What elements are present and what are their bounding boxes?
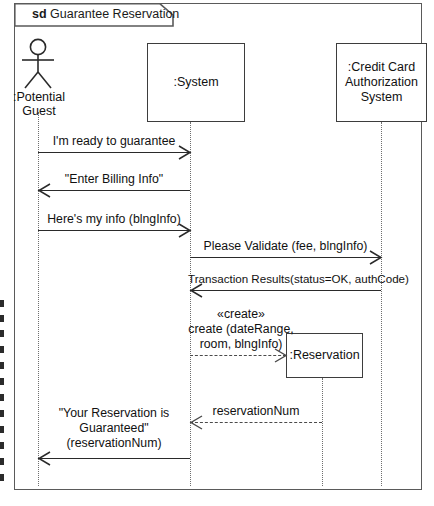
actor-potential-guest-label: :Potential Guest — [0, 90, 78, 119]
actor-potential-guest[interactable] — [14, 38, 64, 90]
scan-speckle — [0, 362, 4, 369]
scan-speckle — [0, 442, 4, 449]
scan-speckle — [0, 315, 4, 322]
message-label: Transaction Results(status=OK, authCode) — [188, 272, 383, 286]
participant-credit-card-authorization-system[interactable]: :Credit Card Authorization System — [336, 43, 427, 122]
message-line — [38, 230, 190, 231]
message-label: «create» create (dateRange, room, blngIn… — [186, 307, 296, 351]
participant-credit-card-label-line-3: System — [345, 90, 418, 105]
scan-speckle — [0, 458, 4, 465]
arrowhead-left — [37, 182, 51, 203]
frame-title: Guarantee Reservation — [50, 7, 179, 21]
lifeline-reservation — [322, 378, 323, 486]
scan-edge-artifact — [0, 0, 5, 506]
arrowhead-left — [37, 450, 51, 471]
participant-credit-card-label-line-1: :Credit Card — [345, 60, 418, 75]
message-line — [190, 422, 322, 423]
scan-speckle — [0, 300, 4, 307]
message-stereotype: «create» — [186, 307, 296, 322]
participant-reservation-label: :Reservation — [289, 348, 359, 363]
scan-speckle — [0, 410, 4, 417]
message-label-line-3: (reservationNum) — [38, 436, 190, 451]
message-line — [190, 290, 381, 291]
message-label-line-1: "Your Reservation is — [38, 406, 190, 421]
arrowhead-left-open — [189, 414, 203, 435]
message-line — [190, 355, 286, 356]
arrowhead-right — [369, 249, 383, 270]
scan-speckle — [0, 378, 4, 385]
frame-name-tab: sd Guarantee Reservation — [14, 3, 174, 26]
actor-label-line-2: Guest — [0, 104, 78, 118]
frame-kind-keyword: sd — [32, 7, 47, 21]
scan-speckle — [0, 474, 4, 481]
message-label-line-2: Guaranteed" — [38, 421, 190, 436]
message-line — [38, 152, 190, 153]
message-label: Please Validate (fee, blngInfo) — [190, 239, 381, 254]
frame-name-label: sd Guarantee Reservation — [32, 7, 179, 21]
message-line — [38, 458, 190, 459]
message-label: "Your Reservation is Guaranteed" (reserv… — [38, 406, 190, 450]
message-label: "Enter Billing Info" — [38, 172, 190, 187]
scan-speckle — [0, 346, 4, 353]
message-label: Here's my info (blngInfo) — [34, 212, 194, 227]
message-line — [38, 190, 190, 191]
actor-label-line-1: :Potential — [0, 90, 78, 104]
message-label: reservationNum — [190, 404, 322, 419]
arrowhead-right-open — [274, 347, 288, 368]
participant-reservation[interactable]: :Reservation — [286, 333, 363, 378]
participant-system-label: :System — [173, 75, 218, 90]
message-line — [190, 257, 381, 258]
message-label: I'm ready to guarantee — [38, 134, 190, 149]
scan-speckle — [0, 330, 4, 337]
message-label-line-1: create (dateRange, — [186, 322, 296, 337]
scan-speckle — [0, 426, 4, 433]
arrowhead-left — [189, 282, 203, 303]
arrowhead-right — [178, 144, 192, 165]
participant-credit-card-label-line-2: Authorization — [345, 75, 418, 90]
sequence-diagram-canvas: sd Guarantee Reservation :Potential Gues… — [0, 0, 434, 506]
scan-speckle — [0, 394, 4, 401]
participant-system[interactable]: :System — [147, 43, 245, 122]
lifeline-credit-card-authorization-system — [381, 122, 382, 486]
